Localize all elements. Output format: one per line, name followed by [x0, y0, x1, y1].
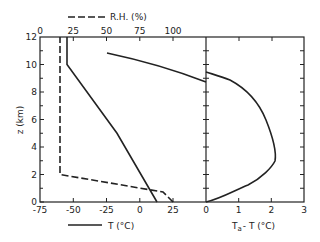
t-legend: T (°C) — [68, 221, 134, 231]
svg-text:4: 4 — [31, 142, 37, 152]
svg-text:1: 1 — [236, 205, 242, 215]
svg-text:75: 75 — [134, 26, 145, 36]
svg-text:0: 0 — [203, 205, 209, 215]
delta-t-tick-labels: 0 1 2 3 — [203, 205, 307, 215]
rh-axis-tick-labels: 0 25 50 75 100 — [37, 26, 182, 36]
rh-legend: R.H. (%) — [68, 12, 147, 22]
relative-humidity-profile-line — [60, 37, 173, 202]
svg-text:Ta- T (°C): Ta- T (°C) — [231, 221, 275, 233]
delta-t-axis-title: Ta- T (°C) — [231, 221, 275, 233]
svg-text:50: 50 — [101, 26, 113, 36]
svg-text:25: 25 — [167, 205, 178, 215]
svg-text:3: 3 — [301, 205, 307, 215]
y-axis-title: z (km) — [15, 106, 25, 135]
t-axis-tick-labels: -75 -50 -25 0 25 — [33, 205, 179, 215]
svg-text:2: 2 — [268, 205, 274, 215]
svg-text:25: 25 — [68, 26, 79, 36]
plot-frame — [40, 37, 304, 202]
bottom-right-ticks — [239, 198, 272, 202]
svg-text:12: 12 — [26, 32, 37, 42]
svg-text:6: 6 — [31, 115, 37, 125]
svg-text:10: 10 — [26, 60, 38, 70]
temperature-upper-segment — [107, 53, 206, 82]
svg-text:R.H. (%): R.H. (%) — [110, 12, 147, 22]
bottom-left-ticks — [73, 198, 173, 202]
svg-text:2: 2 — [31, 170, 37, 180]
svg-text:-25: -25 — [99, 205, 114, 215]
svg-text:0: 0 — [37, 26, 43, 36]
svg-text:T (°C): T (°C) — [107, 221, 134, 231]
chart-figure: 0 2 4 6 8 10 12 -75 -50 -25 0 25 0 25 50… — [0, 0, 320, 242]
y-tick-labels: 0 2 4 6 8 10 12 — [26, 32, 38, 207]
delta-t-profile-curve — [206, 72, 275, 202]
svg-text:8: 8 — [31, 87, 37, 97]
svg-text:100: 100 — [164, 26, 181, 36]
svg-text:-75: -75 — [33, 205, 48, 215]
svg-text:0: 0 — [137, 205, 143, 215]
svg-text:-50: -50 — [66, 205, 81, 215]
